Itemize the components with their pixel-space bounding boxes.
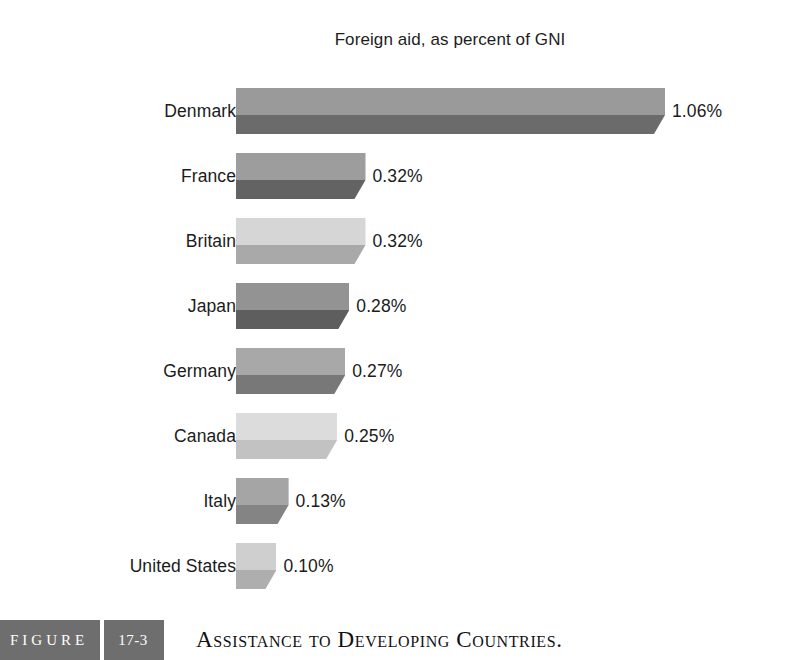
bar-top-face [236, 543, 276, 570]
bar-top-face [236, 218, 366, 245]
value-label: 0.13% [296, 491, 346, 512]
bar [236, 88, 665, 134]
bar [236, 218, 366, 264]
category-label: France [181, 166, 236, 187]
bar-top-face [236, 413, 337, 440]
figure-word-label: FIGURE [0, 620, 100, 660]
bar-row: Canada0.25% [0, 413, 794, 459]
category-label: Canada [174, 426, 236, 447]
bar-bottom-face [236, 505, 289, 524]
bar-top-face [236, 348, 345, 375]
bar [236, 478, 289, 524]
figure-number-label: 17-3 [104, 620, 164, 660]
bar-bottom-face [236, 180, 366, 199]
figure-footer: FIGURE 17-3 Assistance to Developing Cou… [0, 620, 794, 660]
value-label: 1.06% [672, 101, 722, 122]
bar-top-face [236, 88, 665, 115]
bar [236, 413, 337, 459]
bar-top-face [236, 153, 366, 180]
figure-caption: Assistance to Developing Countries. [196, 620, 563, 660]
bar-row: Germany0.27% [0, 348, 794, 394]
bar-top-face [236, 283, 349, 310]
category-label: Japan [188, 296, 236, 317]
category-label: Denmark [164, 101, 236, 122]
value-label: 0.32% [373, 166, 423, 187]
bar-row: United States0.10% [0, 543, 794, 589]
figure-tag-box: FIGURE 17-3 [0, 620, 164, 660]
value-label: 0.28% [356, 296, 406, 317]
value-label: 0.10% [283, 556, 333, 577]
bar-bottom-face [236, 115, 665, 134]
bar-row: Britain0.32% [0, 218, 794, 264]
bar-row: Denmark1.06% [0, 88, 794, 134]
bar-bottom-face [236, 440, 337, 459]
category-label: Germany [163, 361, 236, 382]
value-label: 0.25% [344, 426, 394, 447]
bar [236, 348, 345, 394]
bar [236, 153, 366, 199]
category-label: Britain [186, 231, 236, 252]
bar [236, 543, 276, 589]
bar-bottom-face [236, 570, 276, 589]
category-label: United States [130, 556, 236, 577]
figure-container: Foreign aid, as percent of GNI Denmark1.… [0, 0, 794, 660]
chart-title: Foreign aid, as percent of GNI [0, 30, 794, 50]
bar-top-face [236, 478, 289, 505]
bar [236, 283, 349, 329]
value-label: 0.27% [352, 361, 402, 382]
bar-row: Japan0.28% [0, 283, 794, 329]
bar-bottom-face [236, 245, 366, 264]
value-label: 0.32% [373, 231, 423, 252]
bar-row: Italy0.13% [0, 478, 794, 524]
bar-row: France0.32% [0, 153, 794, 199]
category-label: Italy [203, 491, 236, 512]
chart-plot-area: Denmark1.06%France0.32%Britain0.32%Japan… [0, 78, 794, 598]
bar-bottom-face [236, 310, 349, 329]
bar-bottom-face [236, 375, 345, 394]
